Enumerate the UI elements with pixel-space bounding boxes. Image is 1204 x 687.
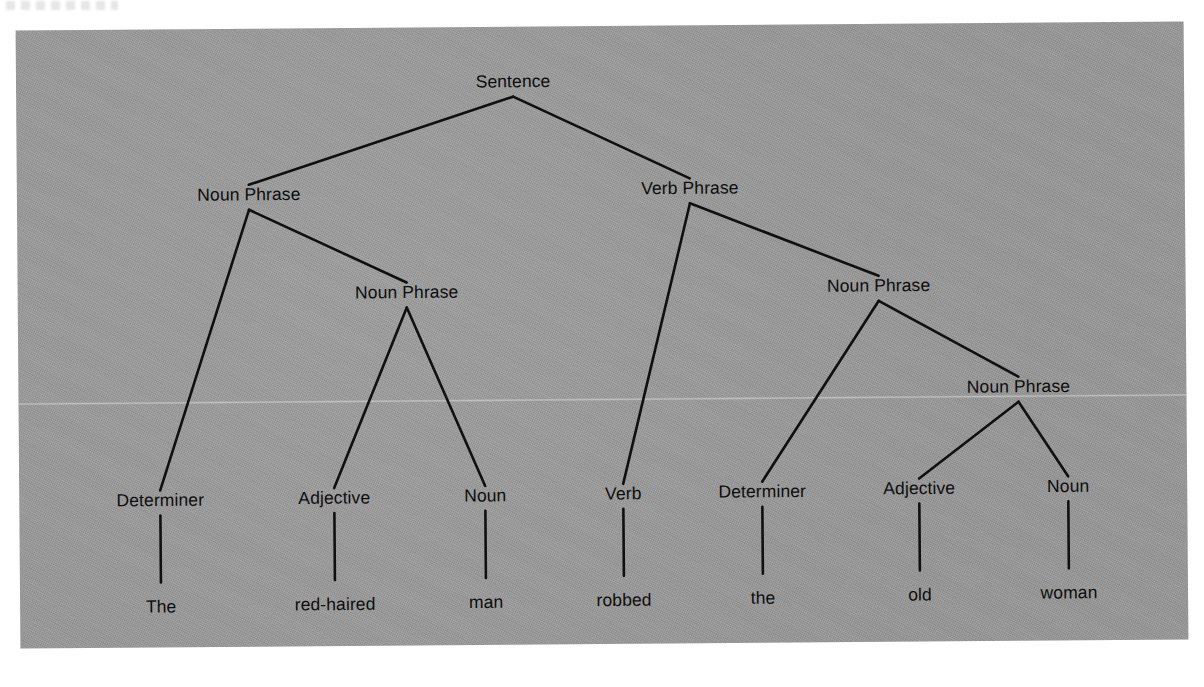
tree-word-1: red-haired bbox=[295, 596, 376, 614]
tree-word-3: robbed bbox=[596, 592, 651, 610]
tree-node-root: Sentence bbox=[476, 73, 551, 91]
tree-node-noun_1: Noun bbox=[464, 487, 506, 505]
leaf-stem-adj_1 bbox=[334, 513, 335, 580]
tree-node-det_2: Determiner bbox=[718, 483, 806, 501]
tree-node-np_subject_inner: Noun Phrase bbox=[355, 284, 458, 302]
tree-node-np_object: Noun Phrase bbox=[827, 277, 930, 295]
tree-word-0: The bbox=[146, 598, 177, 616]
tree-edge-root-to-vp bbox=[513, 95, 690, 179]
tree-branch-lines bbox=[16, 21, 1189, 648]
tree-edge-np_subject_inner-to-adj_1 bbox=[333, 308, 408, 489]
tree-node-det_1: Determiner bbox=[116, 492, 204, 510]
tree-word-6: woman bbox=[1041, 584, 1098, 602]
leaf-stem-det_1 bbox=[160, 515, 161, 582]
tree-edge-np_object_inner-to-noun_2 bbox=[1019, 401, 1069, 476]
tree-edge-np_subject-to-np_subject_inner bbox=[249, 209, 407, 284]
tree-edge-np_object-to-np_object_inner bbox=[879, 300, 1019, 378]
leaf-stem-noun_1 bbox=[485, 511, 486, 578]
tree-edge-vp-to-verb bbox=[621, 203, 692, 484]
syntax-tree-figure-panel: SentenceNoun PhraseVerb PhraseNoun Phras… bbox=[16, 21, 1189, 648]
scanned-page: SentenceNoun PhraseVerb PhraseNoun Phras… bbox=[0, 0, 1204, 687]
tree-edge-np_subject-to-det_1 bbox=[158, 210, 251, 491]
tree-edge-vp-to-np_object bbox=[690, 202, 879, 277]
tree-node-adj_2: Adjective bbox=[883, 480, 955, 498]
leaf-stem-verb bbox=[623, 509, 624, 576]
tree-node-verb: Verb bbox=[605, 485, 642, 503]
leaf-stem-noun_2 bbox=[1068, 501, 1069, 568]
leaf-stem-det_2 bbox=[762, 507, 763, 574]
tree-word-5: old bbox=[908, 586, 932, 604]
tree-edge-np_object_inner-to-adj_2 bbox=[919, 402, 1020, 479]
tree-node-vp: Verb Phrase bbox=[641, 179, 739, 197]
leaf-stem-adj_2 bbox=[919, 504, 920, 571]
tree-edge-np_subject_inner-to-noun_1 bbox=[407, 307, 485, 487]
tree-node-np_subject: Noun Phrase bbox=[197, 186, 300, 204]
tree-edge-np_object-to-det_2 bbox=[761, 301, 880, 482]
tree-edge-root-to-np_subject bbox=[248, 97, 514, 185]
tree-word-2: man bbox=[469, 594, 503, 612]
scan-bleed-artifact bbox=[6, 1, 118, 10]
tree-node-adj_1: Adjective bbox=[298, 489, 370, 507]
tree-word-4: the bbox=[751, 590, 776, 608]
tree-node-np_object_inner: Noun Phrase bbox=[967, 378, 1070, 396]
tree-node-noun_2: Noun bbox=[1047, 478, 1089, 496]
